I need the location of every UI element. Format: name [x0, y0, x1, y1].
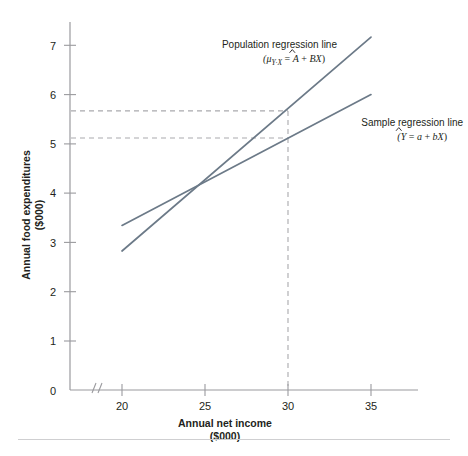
population-regression-annotation: Population regression line (μY·X = A + B… — [222, 39, 338, 67]
y-tick-label-1: 1 — [50, 335, 56, 347]
x-tick-label-25: 25 — [199, 400, 211, 412]
y-tick-label-2: 2 — [50, 286, 56, 298]
y-tick-label-4: 4 — [50, 187, 56, 199]
x-axis-title: Annual net income — [178, 417, 272, 429]
equals-sign: = — [285, 53, 293, 64]
regression-chart: 7 6 5 4 3 2 1 0 20 25 30 35 — [0, 0, 468, 456]
x-axis-tick-labels: 20 25 30 35 — [116, 400, 377, 412]
population-regression-line — [122, 37, 371, 251]
sample-regression-annotation: Sample regression line (Y = a + bX) — [361, 117, 463, 143]
footer-divider — [18, 439, 450, 440]
x-tick-label-20: 20 — [116, 400, 128, 412]
sample-annotation-line1: Sample regression line — [361, 117, 463, 128]
x-axis-title-units: ($000) — [210, 430, 240, 442]
figure-container: 7 6 5 4 3 2 1 0 20 25 30 35 — [0, 0, 468, 456]
x-tick-label-30: 30 — [282, 400, 294, 412]
paren-close: ) — [444, 131, 447, 143]
population-annotation-line2: (μY·X = A + BX) — [263, 53, 325, 67]
y-tick-label-5: 5 — [50, 138, 56, 150]
reference-lines — [71, 111, 288, 389]
y-axis-title-group: Annual food expenditures ($000) — [20, 150, 45, 280]
mu-subscript: Y·X — [271, 58, 282, 67]
y-tick-label-7: 7 — [50, 40, 56, 52]
sample-regression-line — [122, 95, 371, 226]
y-axis-title: Annual food expenditures — [20, 150, 32, 280]
y-tick-label-3: 3 — [50, 237, 56, 249]
plus-sign: + — [422, 131, 433, 142]
y-axis-title-units: ($000) — [33, 200, 45, 230]
x-tick-label-35: 35 — [365, 400, 377, 412]
axis-break-icon — [92, 383, 102, 393]
equals-sign: = — [406, 131, 417, 142]
population-annotation-line1: Population regression line — [222, 39, 338, 50]
paren-close: ) — [322, 53, 325, 65]
sample-annotation-line2: (Y = a + bX) — [397, 131, 447, 143]
axis-lines — [70, 22, 418, 390]
data-series — [122, 37, 371, 251]
plus-sign: + — [299, 53, 310, 64]
y-tick-label-0: 0 — [50, 385, 56, 397]
y-tick-label-6: 6 — [50, 89, 56, 101]
y-axis-tick-labels: 7 6 5 4 3 2 1 0 — [50, 40, 56, 397]
